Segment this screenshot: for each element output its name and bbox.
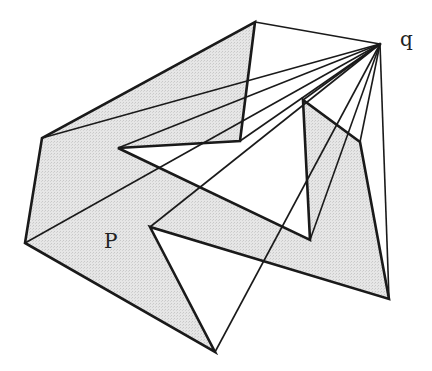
point-label-q: q	[400, 27, 413, 51]
visibility-line	[303, 44, 380, 100]
polygon-p	[25, 22, 389, 352]
visibility-line	[255, 22, 380, 44]
point-q	[379, 43, 382, 46]
polygon-label-p: P	[104, 229, 117, 253]
visibility-diagram: P q	[0, 0, 432, 371]
